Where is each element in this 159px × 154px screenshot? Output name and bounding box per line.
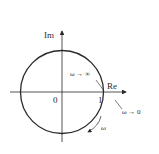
origin-tick-label: 0 [53,96,58,105]
omega-direction-label: ω [101,125,106,132]
omega-infinity-label: ω → ∞ [70,71,90,78]
omega-zero-leader [115,100,122,109]
imaginary-axis-label: Im [44,31,54,40]
omega-zero-label: ω → 0 [122,109,141,116]
real-axis-label: Re [107,82,117,91]
one-tick-label: 1 [98,96,103,105]
